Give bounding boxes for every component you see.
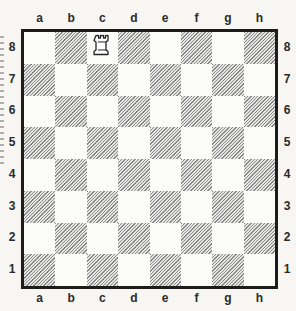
square-a8 — [24, 32, 55, 64]
square-f4 — [181, 159, 212, 191]
square-e6 — [150, 96, 181, 128]
file-label-b: b — [55, 292, 87, 304]
square-g3 — [212, 191, 243, 223]
rank-label-4: 4 — [5, 168, 19, 182]
square-e4 — [150, 159, 181, 191]
square-c4 — [87, 159, 118, 191]
rank-label-6: 6 — [5, 104, 19, 118]
square-e7 — [150, 64, 181, 96]
square-d7 — [118, 64, 149, 96]
rank-label-6: 6 — [280, 104, 294, 118]
square-e8 — [150, 32, 181, 64]
square-g8 — [212, 32, 243, 64]
square-h8 — [244, 32, 275, 64]
square-b2 — [55, 223, 86, 255]
square-g1 — [212, 254, 243, 286]
square-a3 — [24, 191, 55, 223]
file-label-c: c — [86, 12, 118, 24]
square-d2 — [118, 223, 149, 255]
square-a1 — [24, 254, 55, 286]
square-a6 — [24, 96, 55, 128]
square-d4 — [118, 159, 149, 191]
rank-label-3: 3 — [5, 200, 19, 214]
file-label-g: g — [212, 292, 244, 304]
rank-label-8: 8 — [280, 41, 294, 55]
square-d8 — [118, 32, 149, 64]
square-c5 — [87, 127, 118, 159]
square-c6 — [87, 96, 118, 128]
rank-label-2: 2 — [5, 231, 19, 245]
file-label-d: d — [118, 12, 150, 24]
square-e5 — [150, 127, 181, 159]
square-d6 — [118, 96, 149, 128]
file-label-e: e — [149, 12, 181, 24]
square-c8 — [87, 32, 118, 64]
square-d1 — [118, 254, 149, 286]
square-h5 — [244, 127, 275, 159]
square-c2 — [87, 223, 118, 255]
scan-edge-artifact — [0, 36, 4, 166]
white-rook-icon — [93, 34, 111, 60]
chessboard — [21, 29, 278, 289]
file-label-f: f — [181, 292, 213, 304]
square-g4 — [212, 159, 243, 191]
file-label-a: a — [24, 12, 56, 24]
file-label-h: h — [243, 292, 275, 304]
square-f6 — [181, 96, 212, 128]
square-e3 — [150, 191, 181, 223]
square-b3 — [55, 191, 86, 223]
square-h3 — [244, 191, 275, 223]
square-f2 — [181, 223, 212, 255]
square-a5 — [24, 127, 55, 159]
square-e2 — [150, 223, 181, 255]
square-b1 — [55, 254, 86, 286]
square-a2 — [24, 223, 55, 255]
rank-label-2: 2 — [280, 231, 294, 245]
file-label-g: g — [212, 12, 244, 24]
square-f5 — [181, 127, 212, 159]
square-e1 — [150, 254, 181, 286]
square-c7 — [87, 64, 118, 96]
square-h2 — [244, 223, 275, 255]
file-label-d: d — [118, 292, 150, 304]
rank-label-1: 1 — [5, 263, 19, 277]
rank-label-7: 7 — [280, 73, 294, 87]
square-b6 — [55, 96, 86, 128]
file-label-c: c — [86, 292, 118, 304]
square-f7 — [181, 64, 212, 96]
square-c1 — [87, 254, 118, 286]
file-label-e: e — [149, 292, 181, 304]
rank-label-4: 4 — [280, 168, 294, 182]
rank-label-5: 5 — [5, 136, 19, 150]
rank-label-5: 5 — [280, 136, 294, 150]
file-label-h: h — [243, 12, 275, 24]
square-a4 — [24, 159, 55, 191]
square-g6 — [212, 96, 243, 128]
rank-label-1: 1 — [280, 263, 294, 277]
file-label-a: a — [24, 292, 56, 304]
square-h6 — [244, 96, 275, 128]
square-a7 — [24, 64, 55, 96]
rank-label-7: 7 — [5, 73, 19, 87]
rank-label-3: 3 — [280, 200, 294, 214]
square-f3 — [181, 191, 212, 223]
square-g5 — [212, 127, 243, 159]
square-d5 — [118, 127, 149, 159]
square-g2 — [212, 223, 243, 255]
square-b4 — [55, 159, 86, 191]
square-f1 — [181, 254, 212, 286]
square-h1 — [244, 254, 275, 286]
square-c3 — [87, 191, 118, 223]
square-h4 — [244, 159, 275, 191]
square-b5 — [55, 127, 86, 159]
file-label-b: b — [55, 12, 87, 24]
square-g7 — [212, 64, 243, 96]
square-d3 — [118, 191, 149, 223]
file-label-f: f — [181, 12, 213, 24]
square-b7 — [55, 64, 86, 96]
square-f8 — [181, 32, 212, 64]
rank-label-8: 8 — [5, 41, 19, 55]
square-b8 — [55, 32, 86, 64]
square-h7 — [244, 64, 275, 96]
